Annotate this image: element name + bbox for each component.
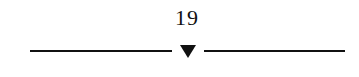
page-number: 19 xyxy=(0,6,359,30)
divider-line-right xyxy=(204,50,345,52)
divider-line-left xyxy=(30,50,172,52)
down-triangle-icon xyxy=(180,45,196,58)
